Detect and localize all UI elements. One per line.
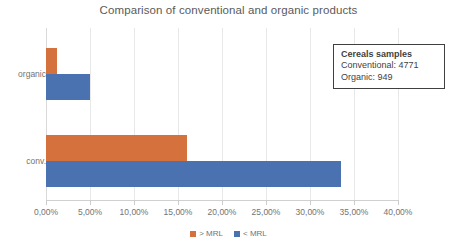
chart-legend: > MRL < MRL bbox=[0, 229, 457, 238]
bar-organic-below-mrl bbox=[46, 74, 90, 100]
x-axis-tick-label: 35,00% bbox=[329, 207, 379, 217]
x-axis-tick bbox=[354, 200, 355, 205]
x-axis-tick bbox=[310, 200, 311, 205]
annotation-title: Cereals samples bbox=[341, 49, 438, 59]
chart-title: Comparison of conventional and organic p… bbox=[0, 4, 457, 16]
legend-item-above-mrl: > MRL bbox=[190, 229, 223, 238]
bar-conv-below-mrl bbox=[46, 161, 341, 187]
bar-conv-above-mrl bbox=[46, 135, 187, 161]
legend-label-above-mrl: > MRL bbox=[199, 229, 223, 238]
x-axis-tick-label: 25,00% bbox=[241, 207, 291, 217]
x-axis-tick-label: 30,00% bbox=[285, 207, 335, 217]
annotation-box: Cereals samples Conventional: 4771 Organ… bbox=[333, 44, 445, 89]
category-label-conv: conv. bbox=[26, 156, 46, 166]
x-axis-tick bbox=[90, 200, 91, 205]
x-axis-tick-label: 20,00% bbox=[197, 207, 247, 217]
legend-swatch-above-mrl bbox=[190, 231, 196, 237]
x-axis-tick-label: 0,00% bbox=[21, 207, 71, 217]
annotation-line-conventional: Conventional: 4771 bbox=[341, 60, 438, 72]
x-axis-tick-label: 15,00% bbox=[153, 207, 203, 217]
x-axis-tick-label: 10,00% bbox=[109, 207, 159, 217]
legend-label-below-mrl: < MRL bbox=[243, 229, 267, 238]
x-axis-tick bbox=[178, 200, 179, 205]
legend-swatch-below-mrl bbox=[234, 231, 240, 237]
annotation-line-organic: Organic: 949 bbox=[341, 72, 438, 84]
legend-item-below-mrl: < MRL bbox=[234, 229, 267, 238]
x-axis-tick bbox=[134, 200, 135, 205]
x-axis-tick bbox=[398, 200, 399, 205]
x-axis-tick bbox=[266, 200, 267, 205]
x-axis-tick bbox=[46, 200, 47, 205]
bar-organic-above-mrl bbox=[46, 48, 57, 74]
category-label-organic: organic bbox=[18, 69, 46, 79]
x-axis-tick-label: 5,00% bbox=[65, 207, 115, 217]
x-axis-tick-label: 40,00% bbox=[373, 207, 423, 217]
x-axis-tick bbox=[222, 200, 223, 205]
bar-chart: Comparison of conventional and organic p… bbox=[0, 0, 457, 251]
